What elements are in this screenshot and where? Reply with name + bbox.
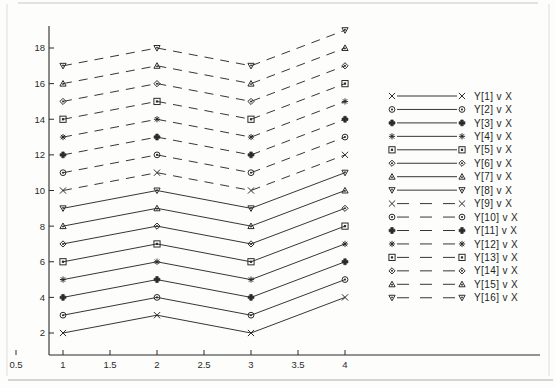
data-point — [248, 170, 254, 176]
legend-marker — [459, 214, 465, 220]
legend-marker — [459, 93, 465, 99]
data-point — [154, 259, 160, 265]
x-tick-label: 3.5 — [291, 359, 304, 370]
series-line — [63, 208, 345, 244]
series-line — [63, 48, 345, 84]
legend-marker — [389, 120, 395, 126]
legend-marker — [389, 268, 395, 274]
series-5 — [60, 223, 348, 265]
legend-label: Y[16] v X — [474, 292, 518, 303]
data-point — [248, 187, 254, 193]
series-15 — [60, 45, 348, 86]
legend-item[interactable]: Y[5] v X — [389, 144, 512, 155]
data-point — [342, 187, 348, 193]
data-point — [248, 116, 254, 122]
x-tick-label: 1.5 — [103, 359, 116, 370]
data-point — [342, 241, 348, 247]
legend-label: Y[15] v X — [474, 279, 518, 290]
legend-marker — [459, 295, 465, 301]
legend-marker — [389, 254, 395, 260]
data-point — [248, 206, 254, 212]
data-point — [342, 98, 348, 104]
series-line — [63, 66, 345, 102]
legend-item[interactable]: Y[12] v X — [389, 239, 518, 250]
legend-marker — [389, 188, 395, 194]
legend-label: Y[5] v X — [474, 144, 512, 155]
data-point — [60, 206, 66, 212]
data-point — [248, 294, 254, 300]
data-point — [342, 116, 348, 122]
series-line — [63, 262, 345, 298]
series-line — [63, 137, 345, 173]
x-tick-label: 2.5 — [197, 359, 210, 370]
legend-item[interactable]: Y[7] v X — [389, 171, 512, 182]
x-tick-label: 4 — [342, 359, 347, 370]
series-13 — [60, 81, 348, 123]
legend-item[interactable]: Y[10] v X — [389, 212, 518, 223]
data-point — [342, 223, 348, 229]
legend-marker — [389, 228, 395, 234]
data-point — [342, 152, 348, 158]
data-point — [342, 170, 348, 176]
y-tick-label: 4 — [40, 292, 45, 303]
y-tick-label: 16 — [34, 78, 45, 89]
series-12 — [60, 98, 348, 140]
series-line — [63, 155, 345, 191]
data-point — [342, 45, 348, 51]
legend-item[interactable]: Y[15] v X — [389, 279, 518, 290]
data-point — [342, 81, 348, 87]
series-10 — [60, 134, 348, 175]
legend-marker — [389, 174, 395, 180]
chart-canvas: 24681012141618 0.511.522.533.54 Y[1] v X… — [0, 0, 555, 388]
series-line — [63, 297, 345, 333]
data-point — [248, 276, 254, 282]
legend-item[interactable]: Y[6] v X — [389, 158, 512, 169]
legend-marker — [459, 228, 465, 234]
y-tick-label: 14 — [34, 114, 45, 125]
legend-item[interactable]: Y[13] v X — [389, 252, 518, 263]
data-point — [154, 205, 160, 211]
legend-marker — [459, 107, 465, 113]
legend-item[interactable]: Y[3] v X — [389, 118, 512, 129]
series-line — [63, 280, 345, 316]
series-line — [63, 173, 345, 209]
legend-marker — [459, 188, 465, 194]
data-point — [60, 63, 66, 69]
series-1 — [60, 294, 348, 336]
y-tick-label: 6 — [40, 256, 45, 267]
series-line — [63, 244, 345, 280]
legend-marker — [459, 201, 465, 207]
legend-label: Y[12] v X — [474, 239, 518, 250]
legend-label: Y[2] v X — [474, 104, 512, 115]
series-9 — [60, 152, 348, 194]
data-point — [248, 134, 254, 140]
x-tick-label: 2 — [154, 359, 159, 370]
legend-label: Y[14] v X — [474, 265, 518, 276]
x-axis: 0.511.522.533.54 — [9, 350, 540, 370]
legend-item[interactable]: Y[4] v X — [389, 131, 512, 142]
legend-item[interactable]: Y[11] v X — [389, 225, 517, 236]
legend-item[interactable]: Y[9] v X — [389, 198, 512, 209]
legend-marker — [389, 281, 395, 287]
x-tick-label: 3 — [248, 359, 253, 370]
series-11 — [60, 116, 348, 158]
legend-marker — [389, 93, 395, 99]
data-point — [248, 152, 254, 158]
legend-marker — [459, 241, 465, 247]
legend-item[interactable]: Y[1] v X — [389, 91, 512, 102]
legend-item[interactable]: Y[8] v X — [389, 185, 512, 196]
legend-label: Y[3] v X — [474, 118, 512, 129]
y-axis: 24681012141618 — [34, 26, 54, 355]
y-tick-label: 12 — [34, 149, 45, 160]
legend-item[interactable]: Y[16] v X — [389, 292, 518, 303]
legend-marker — [459, 120, 465, 126]
legend-item[interactable]: Y[2] v X — [389, 104, 512, 115]
data-point — [154, 134, 160, 140]
series-2 — [60, 277, 348, 318]
legend-marker — [389, 295, 395, 301]
data-point — [342, 294, 348, 300]
legend-label: Y[13] v X — [474, 252, 518, 263]
legend-item[interactable]: Y[14] v X — [389, 265, 518, 276]
series-line — [63, 191, 345, 227]
legend-marker — [459, 133, 465, 139]
